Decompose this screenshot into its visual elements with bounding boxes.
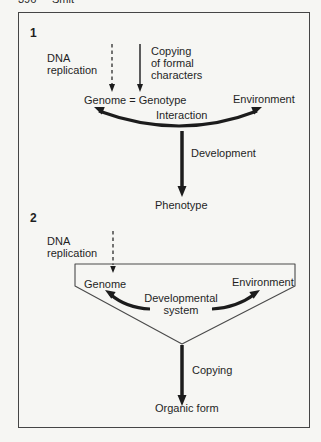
- genome-genotype-label: Genome = Genotype: [84, 94, 186, 106]
- dna-replication-label-1: DNA replication: [47, 52, 97, 76]
- development-label: Development: [191, 147, 256, 159]
- environment-label-1: Environment: [233, 93, 295, 105]
- running-title: Smit: [52, 0, 74, 5]
- developmental-system-label: Developmental system: [140, 292, 222, 316]
- phenotype-label: Phenotype: [155, 199, 208, 211]
- diagram2-number: 2: [30, 212, 37, 224]
- organic-form-label: Organic form: [155, 402, 219, 414]
- interaction-label: Interaction: [156, 109, 207, 121]
- copying-of-formal-characters-label: Copying of formal characters: [151, 45, 202, 81]
- environment-label-2: Environment: [232, 276, 294, 288]
- scanned-book-page: 396 Smit: [0, 0, 321, 442]
- page-number: 396: [18, 0, 36, 5]
- genome-label: Genome: [84, 278, 126, 290]
- copying-label: Copying: [192, 364, 232, 376]
- dna-replication-label-2: DNA replication: [47, 235, 97, 259]
- diagram1-number: 1: [30, 27, 37, 39]
